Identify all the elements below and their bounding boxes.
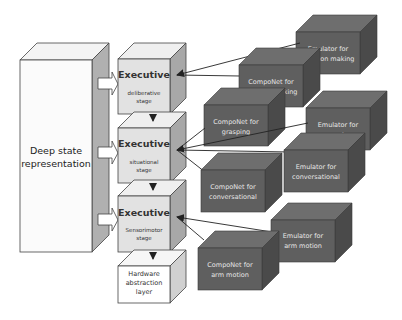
svg-text:abstraction: abstraction xyxy=(126,279,163,287)
svg-text:conversational: conversational xyxy=(209,193,257,201)
svg-text:CompoNet for: CompoNet for xyxy=(207,261,253,269)
module-componet-arm: CompoNet for arm motion xyxy=(198,231,279,290)
svg-text:CompoNet for: CompoNet for xyxy=(213,118,259,126)
deep-state-label-line1: Deep state xyxy=(30,145,82,156)
module-emulator-arm: Emulator for arm motion xyxy=(271,203,352,262)
svg-text:layer: layer xyxy=(136,288,153,296)
svg-text:Sensorimotor: Sensorimotor xyxy=(126,227,164,233)
deep-state-label-line2: representation xyxy=(21,158,91,169)
svg-text:grasping: grasping xyxy=(222,128,250,136)
svg-text:Hardware: Hardware xyxy=(128,270,159,278)
executive-situational: Executive situational stage xyxy=(118,112,186,183)
deep-state-box: Deep state representation xyxy=(20,43,109,252)
module-componet-conversational: CompoNet for conversational xyxy=(201,153,282,212)
svg-text:conversational: conversational xyxy=(292,173,340,181)
module-componet-grasping: CompoNet for grasping xyxy=(204,88,285,146)
svg-text:CompoNet for: CompoNet for xyxy=(248,78,294,86)
svg-text:CompoNet for: CompoNet for xyxy=(210,183,256,191)
architecture-diagram: Deep state representation Executive deli… xyxy=(0,0,402,320)
svg-text:stage: stage xyxy=(136,167,152,174)
executive-title: Executive xyxy=(118,138,170,149)
executive-title: Executive xyxy=(118,69,170,80)
svg-text:Emulator for: Emulator for xyxy=(283,232,324,240)
module-emulator-conversational: Emulator for conversational xyxy=(284,133,365,192)
svg-text:stage: stage xyxy=(136,98,152,105)
executive-title: Executive xyxy=(118,207,170,218)
svg-text:stage: stage xyxy=(136,235,152,242)
executive-deliberative: Executive deliberative stage xyxy=(118,43,186,114)
svg-text:arm motion: arm motion xyxy=(211,271,249,279)
executive-sensorimotor: Executive Sensorimotor stage xyxy=(118,180,186,252)
svg-text:deliberative: deliberative xyxy=(128,90,161,96)
hardware-abstraction-box: Hardware abstraction layer xyxy=(118,250,186,303)
svg-text:Emulator for: Emulator for xyxy=(318,121,359,129)
svg-text:Emulator for: Emulator for xyxy=(296,163,337,171)
svg-text:arm motion: arm motion xyxy=(284,242,322,250)
svg-text:situational: situational xyxy=(130,159,159,165)
